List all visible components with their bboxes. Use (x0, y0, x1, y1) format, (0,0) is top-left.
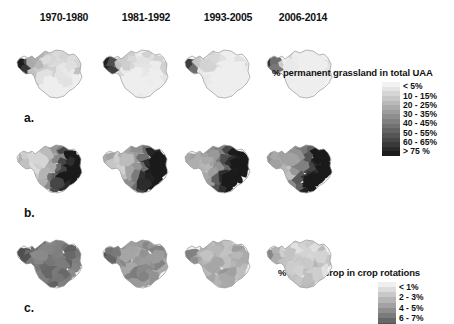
map-panel-a-1970-1980 (12, 42, 90, 108)
legend-label: 40 - 45% (403, 119, 437, 128)
choropleth-map (262, 137, 340, 203)
map-panel-a-1993-2005 (180, 42, 258, 108)
row-label-c: c. (24, 301, 34, 315)
choropleth-map (98, 137, 176, 203)
choropleth-map (180, 42, 258, 108)
map-panel-b-1993-2005 (180, 137, 258, 203)
choropleth-map (98, 42, 176, 108)
legend-label: < 5% (403, 82, 437, 91)
map-panel-b-1970-1980 (12, 137, 90, 203)
legend-title-a: % permanent grassland in total UAA (272, 67, 437, 78)
map-panel-b-2006-2014 (262, 137, 340, 203)
map-panel-c-1993-2005 (180, 232, 258, 298)
map-row-a: a. % permanent grassland in total UAA < … (0, 36, 454, 131)
choropleth-map (12, 232, 90, 298)
choropleth-map (12, 42, 90, 108)
map-panel-a-1981-1992 (98, 42, 176, 108)
choropleth-map (180, 137, 258, 203)
period-header-row: 1970-1980 1981-1992 1993-2005 2006-2014 (0, 11, 454, 27)
map-row-b: b. % legume crop in crop rotations < 1%2… (0, 131, 454, 226)
map-panel-c-1970-1980 (12, 232, 90, 298)
map-row-c: c. % spring crop in crop rotations < 5%1… (0, 226, 454, 321)
row-label-a: a. (24, 111, 34, 125)
row-label-b: b. (24, 206, 35, 220)
choropleth-map (12, 137, 90, 203)
map-panel-c-2006-2014 (262, 232, 340, 298)
figure-canvas: 1970-1980 1981-1992 1993-2005 2006-2014 … (0, 0, 454, 324)
choropleth-map (262, 232, 340, 298)
choropleth-map (180, 232, 258, 298)
choropleth-map (98, 232, 176, 298)
map-panel-c-1981-1992 (98, 232, 176, 298)
map-panel-b-1981-1992 (98, 137, 176, 203)
period-header-2006-2014: 2006-2014 (255, 11, 351, 23)
